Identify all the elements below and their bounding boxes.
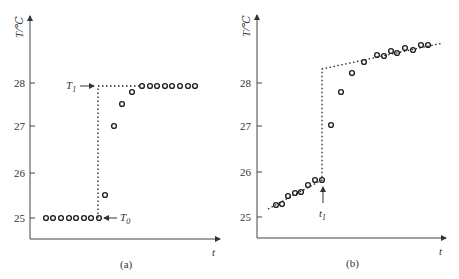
reference-step-a (98, 86, 140, 218)
y-tick-label-b-28: 28 (240, 78, 251, 89)
t1-level-label: T1 (66, 80, 76, 94)
t0-level-label: T0 (120, 212, 130, 226)
caption-a: (a) (120, 259, 132, 270)
t1-step-label: t1 (319, 208, 326, 222)
y-tick-label-a-25: 25 (14, 213, 25, 224)
caption-b: (b) (346, 258, 359, 269)
data-points-b (274, 43, 431, 208)
y-tick-label-b-26: 26 (240, 167, 251, 178)
figure-canvas (0, 0, 459, 279)
y-ticks-a (30, 83, 35, 218)
y-tick-label-a-27: 27 (14, 121, 25, 132)
y-axis-label-b: T/℃ (241, 16, 252, 37)
panel-b (257, 15, 446, 238)
panel-a (30, 16, 220, 239)
y-axis-label-a: T/℃ (14, 17, 25, 38)
y-ticks-b (257, 83, 262, 217)
y-tick-label-b-25: 25 (240, 212, 251, 223)
x-axis-label-b: t (439, 246, 442, 257)
x-axis-label-a: t (212, 247, 215, 258)
data-points-a (44, 84, 198, 221)
reference-drift-b (268, 43, 443, 209)
y-tick-label-b-27: 27 (240, 121, 251, 132)
y-tick-label-a-26: 26 (14, 168, 25, 179)
y-tick-label-a-28: 28 (14, 78, 25, 89)
